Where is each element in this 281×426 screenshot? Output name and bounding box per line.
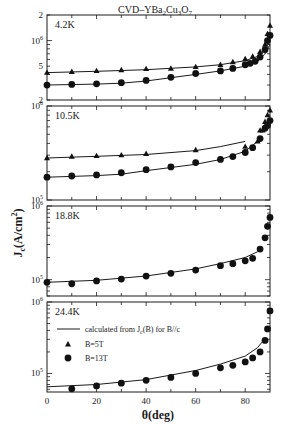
circle-marker-13T <box>68 385 75 392</box>
plot-frame <box>47 106 270 200</box>
circle-marker-13T <box>257 349 264 356</box>
triangle-marker-5T <box>69 69 75 74</box>
panel-temperature-label: 4.2K <box>55 19 76 30</box>
y-tick-label: 106 <box>31 100 43 111</box>
x-axis-label: θ(deg) <box>142 408 174 422</box>
circle-marker-13T <box>118 380 125 387</box>
plot-frame <box>47 206 270 296</box>
legend-circle-icon <box>65 355 72 362</box>
triangle-marker-5T <box>193 147 199 152</box>
plot-frame <box>47 15 270 100</box>
calculated-curve <box>47 141 258 177</box>
circle-marker-13T <box>257 54 264 61</box>
triangle-marker-5T <box>94 68 100 73</box>
circle-marker-13T <box>93 171 100 178</box>
legend-label-13T: B=13T <box>85 354 108 363</box>
triangle-marker-5T <box>94 153 100 158</box>
circle-marker-13T <box>167 374 174 381</box>
panel-4-2K: 2106524.2K <box>31 10 273 105</box>
triangle-marker-5T <box>267 22 273 27</box>
calculated-curve <box>47 45 270 86</box>
circle-marker-13T <box>118 276 125 283</box>
circle-marker-13T <box>229 153 236 160</box>
circle-marker-13T <box>192 370 199 377</box>
triangle-marker-5T <box>118 67 124 72</box>
x-tick-label: 40 <box>142 396 152 406</box>
legend: calculated from Jc(B) for B//cB=5TB=13T <box>57 325 181 363</box>
y-tick-label: 106 <box>31 35 43 46</box>
circle-marker-13T <box>264 326 271 333</box>
circle-marker-13T <box>249 255 256 262</box>
triangle-marker-5T <box>143 66 149 71</box>
chart-canvas: CVD–YBa2Cu3O72106524.2K10610510.5K106105… <box>0 0 281 426</box>
y-tick-label: 5 <box>39 61 44 71</box>
circle-marker-13T <box>217 156 224 163</box>
panel-temperature-label: 24.4K <box>55 306 81 317</box>
circle-marker-13T <box>118 169 125 176</box>
triangle-marker-5T <box>230 59 236 64</box>
triangle-marker-5T <box>250 53 256 58</box>
triangle-marker-5T <box>118 152 124 157</box>
triangle-marker-5T <box>69 153 75 158</box>
panel-10-5K: 10610510.5K <box>31 100 273 205</box>
y-tick-label: 105 <box>31 274 43 285</box>
circle-marker-13T <box>262 234 269 241</box>
circle-marker-13T <box>44 279 51 286</box>
circle-marker-13T <box>93 80 100 87</box>
legend-label-5T: B=5T <box>85 340 104 349</box>
circle-marker-13T <box>229 65 236 72</box>
circle-marker-13T <box>143 77 150 84</box>
circle-marker-13T <box>68 280 75 287</box>
x-tick-label: 20 <box>92 396 102 406</box>
circle-marker-13T <box>44 82 51 89</box>
circle-marker-13T <box>217 364 224 371</box>
circle-marker-13T <box>217 67 224 74</box>
circle-marker-13T <box>192 159 199 166</box>
circle-marker-13T <box>192 70 199 77</box>
circle-marker-13T <box>68 173 75 180</box>
x-tick-label: 80 <box>241 396 251 406</box>
x-tick-label: 0 <box>45 396 50 406</box>
circle-marker-13T <box>217 262 224 269</box>
circle-marker-13T <box>267 32 274 39</box>
y-axis-label: Jc(A/cm2) <box>10 209 27 258</box>
plot-frame <box>47 302 270 392</box>
panel-temperature-label: 10.5K <box>55 110 81 121</box>
circle-marker-13T <box>68 81 75 88</box>
triangle-marker-5T <box>242 56 248 61</box>
legend-label-calculated: calculated from Jc(B) for B//c <box>85 325 181 335</box>
panel-18-8K: 10610518.8K <box>31 200 273 296</box>
circle-marker-13T <box>167 74 174 81</box>
circle-marker-13T <box>167 270 174 277</box>
circle-marker-13T <box>229 362 236 369</box>
legend-triangle-icon <box>65 341 71 347</box>
circle-marker-13T <box>143 273 150 280</box>
circle-marker-13T <box>264 223 271 230</box>
triangle-marker-5T <box>143 151 149 156</box>
circle-marker-13T <box>257 135 264 142</box>
circle-marker-13T <box>93 278 100 285</box>
circle-marker-13T <box>262 46 269 53</box>
triangle-marker-5T <box>242 143 248 148</box>
triangle-marker-5T <box>267 107 273 112</box>
x-tick-label: 60 <box>191 396 201 406</box>
circle-marker-13T <box>167 163 174 170</box>
circle-marker-13T <box>242 359 249 366</box>
circle-marker-13T <box>242 257 249 264</box>
circle-marker-13T <box>143 166 150 173</box>
y-tick-label: 106 <box>31 200 43 211</box>
panel-temperature-label: 18.8K <box>55 210 81 221</box>
y-tick-label: 105 <box>31 367 43 378</box>
circle-marker-13T <box>267 308 274 315</box>
circle-marker-13T <box>267 214 274 221</box>
circle-marker-13T <box>262 337 269 344</box>
circle-marker-13T <box>249 144 256 151</box>
jc-vs-angle-chart: CVD–YBa2Cu3O72106524.2K10610510.5K106105… <box>0 0 281 426</box>
circle-marker-13T <box>143 377 150 384</box>
circle-marker-13T <box>93 382 100 389</box>
circle-marker-13T <box>44 174 51 181</box>
circle-marker-13T <box>242 149 249 156</box>
circle-marker-13T <box>257 246 264 253</box>
panel-24-4K: 10610524.4Kcalculated from Jc(B) for B//… <box>31 296 273 392</box>
circle-marker-13T <box>192 267 199 274</box>
